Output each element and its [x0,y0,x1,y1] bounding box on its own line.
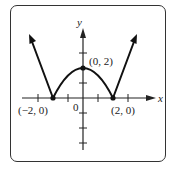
x-axis-arrow-icon [146,95,156,101]
y-axis-label: y [76,16,82,28]
origin-label: 0 [73,101,79,113]
point-2-0 [110,95,115,100]
y-axis-arrow-icon [80,28,86,38]
point-label-0-2: (0, 2) [89,55,113,68]
point-label-2-0: (2, 0) [111,104,135,117]
graph-svg: y x 0 (−2, 0) (2, 0) (0, 2) [0,0,171,171]
curve-right-arrow-icon [130,34,137,44]
x-axis-label: x [157,92,163,104]
curve-left-arrow-icon [29,34,36,44]
point-neg2-0 [50,95,55,100]
point-0-2 [80,65,85,70]
point-label-neg2-0: (−2, 0) [18,104,48,117]
